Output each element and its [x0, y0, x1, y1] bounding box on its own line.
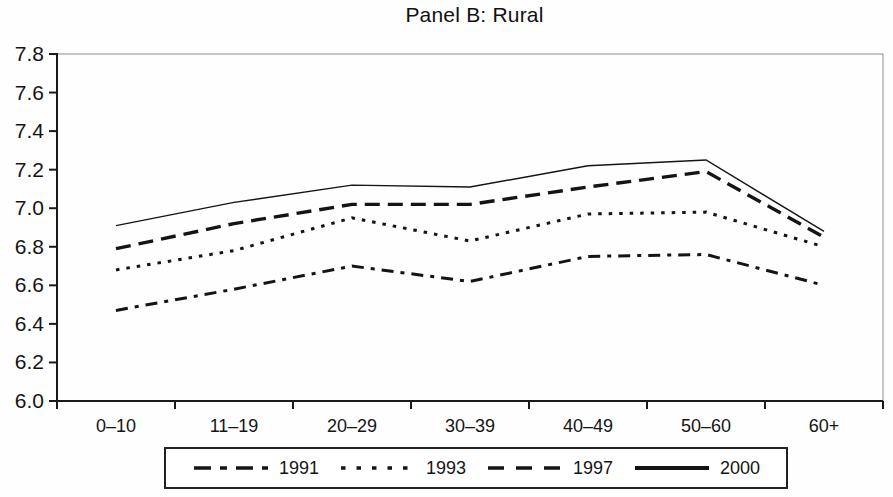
legend-swatch-dashdot-line-icon — [192, 463, 270, 473]
plot-frame — [57, 54, 883, 401]
y-axis-tick-label: 7.2 — [15, 158, 44, 181]
legend-entry-1993: 1993 — [339, 458, 466, 479]
x-axis-tick-label: 11–19 — [210, 416, 259, 436]
chart-legend: 1991199319972000 — [164, 447, 788, 489]
x-axis-tick-label: 40–49 — [563, 416, 613, 436]
y-axis-tick-label: 6.6 — [15, 273, 44, 296]
y-axis-tick-label: 7.6 — [15, 81, 44, 104]
y-axis-tick-label: 7.8 — [15, 42, 44, 65]
x-axis-tick-label: 20–29 — [327, 416, 377, 436]
y-axis-tick-label: 6.8 — [15, 235, 44, 258]
legend-swatch-solid-line-icon — [633, 463, 711, 473]
x-axis-tick-label: 0–10 — [96, 416, 136, 436]
series-line-1997 — [116, 172, 824, 249]
legend-label: 1991 — [279, 458, 319, 479]
x-axis-tick-label: 30–39 — [445, 416, 495, 436]
legend-entry-2000: 2000 — [633, 458, 760, 479]
series-line-1991 — [116, 255, 824, 311]
y-axis-tick-label: 6.2 — [15, 350, 44, 373]
legend-entry-1997: 1997 — [486, 458, 613, 479]
line-chart-plot: 7.87.67.47.27.06.86.66.46.26.00–1011–192… — [0, 0, 893, 497]
legend-label: 1993 — [426, 458, 466, 479]
chart-figure: Panel B: Rural 7.87.67.47.27.06.86.66.46… — [0, 0, 893, 497]
y-axis-tick-label: 7.4 — [15, 119, 45, 142]
legend-swatch-dashed-line-icon — [486, 463, 564, 473]
x-axis-tick-label: 60+ — [809, 416, 840, 436]
legend-label: 2000 — [720, 458, 760, 479]
y-axis-tick-label: 7.0 — [15, 196, 44, 219]
legend-swatch-dotted-line-icon — [339, 463, 417, 473]
series-line-2000 — [116, 160, 824, 231]
legend-label: 1997 — [573, 458, 613, 479]
series-line-1993 — [116, 212, 824, 270]
x-axis-tick-label: 50–60 — [681, 416, 731, 436]
y-axis-tick-label: 6.0 — [15, 389, 44, 412]
y-axis-tick-label: 6.4 — [15, 312, 45, 335]
legend-entry-1991: 1991 — [192, 458, 319, 479]
